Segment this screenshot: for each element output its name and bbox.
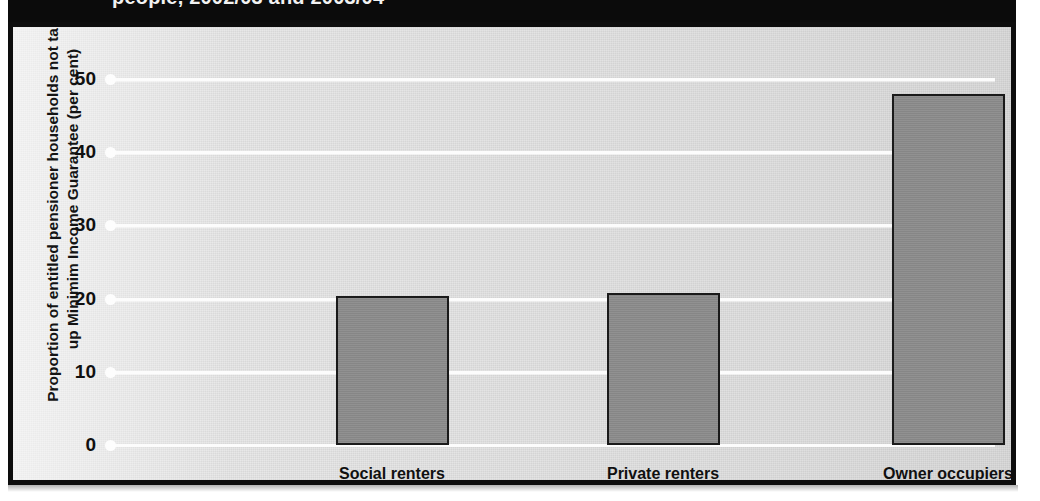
y-tick-dot <box>105 367 116 378</box>
y-tick-label: 0 <box>85 435 96 454</box>
gridline <box>113 151 995 154</box>
y-tick-dot <box>105 74 116 85</box>
y-tick-label: 50 <box>75 69 96 88</box>
bar-private-renters <box>607 293 720 445</box>
x-category-label: Social renters <box>262 466 522 482</box>
figure-frame: Proportion of entitled pensioner househo… <box>8 22 1016 485</box>
scan-shadow <box>8 485 1018 492</box>
y-tick-label: 40 <box>75 142 96 161</box>
bar-chart-plot-area: 01020304050Social rentersPrivate renters… <box>105 51 995 451</box>
y-tick-label: 30 <box>75 215 96 234</box>
x-category-label: Private renters <box>533 466 793 482</box>
x-category-label: Owner occupiers <box>818 466 1016 482</box>
gridline <box>113 298 995 301</box>
y-tick-dot <box>105 294 116 305</box>
scanned-page: people, 2002/03 and 2003/04 Proportion o… <box>0 0 1040 501</box>
axis-baseline <box>113 444 995 447</box>
figure-title-text: people, 2002/03 and 2003/04 <box>112 0 384 9</box>
y-tick-label: 10 <box>75 362 96 381</box>
y-tick-label: 20 <box>75 289 96 308</box>
figure-title-banner: people, 2002/03 and 2003/04 <box>8 0 1016 24</box>
gridline <box>113 371 995 374</box>
y-tick-dot <box>105 147 116 158</box>
bar-owner-occupiers <box>892 94 1005 445</box>
gridline <box>113 224 995 227</box>
gridline <box>113 78 995 81</box>
y-tick-dot <box>105 220 116 231</box>
y-tick-dot <box>105 440 116 451</box>
bar-social-renters <box>336 296 449 445</box>
